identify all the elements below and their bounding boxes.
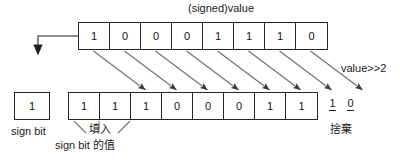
fill-label: 填入 [89, 124, 111, 135]
source-bit-cell: 1 [234, 23, 265, 49]
result-bit-cell: 1 [286, 93, 317, 119]
shift-arrows [94, 51, 363, 90]
source-bit-cell: 0 [296, 23, 327, 49]
source-value-label: (signed)value [188, 3, 254, 14]
sign-bit-caption: sign bit [11, 126, 46, 137]
shift-right-diagram: (signed)value 1 0 0 0 1 1 1 0 value>>2 1… [0, 0, 400, 161]
result-bit-cell: 1 [100, 93, 131, 119]
sign-bit-connector [33, 36, 78, 56]
result-bit-cell: 1 [69, 93, 100, 119]
result-bit-row: 1 1 1 0 0 0 1 1 [68, 92, 318, 120]
source-bit-cell: 1 [203, 23, 234, 49]
result-bit-cell: 1 [255, 93, 286, 119]
source-bit-row: 1 0 0 0 1 1 1 0 [78, 22, 328, 50]
discarded-bits: 10 [329, 98, 354, 111]
source-bit-cell: 1 [79, 23, 110, 49]
shift-operation-label: value>>2 [341, 63, 386, 74]
result-bit-cell: 0 [224, 93, 255, 119]
discarded-bit: 0 [347, 98, 354, 111]
discarded-caption: 捨棄 [330, 124, 352, 135]
source-bit-cell: 0 [110, 23, 141, 49]
discarded-bit: 1 [329, 98, 336, 111]
sign-bit-box: 1 [14, 92, 50, 120]
result-bit-cell: 1 [131, 93, 162, 119]
result-bit-cell: 0 [162, 93, 193, 119]
fill-source-label: sign bit 的值 [55, 140, 115, 151]
source-bit-cell: 1 [265, 23, 296, 49]
source-bit-cell: 0 [141, 23, 172, 49]
source-bit-cell: 0 [172, 23, 203, 49]
result-bit-cell: 0 [193, 93, 224, 119]
